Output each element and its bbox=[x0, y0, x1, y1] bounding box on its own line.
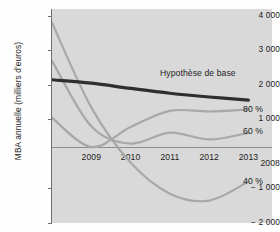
x-tick-label: 2009 bbox=[77, 152, 105, 162]
y-tick-mark bbox=[48, 119, 52, 120]
y-tick-label: 3 000 bbox=[236, 45, 280, 54]
y-tick-mark bbox=[48, 188, 52, 189]
x-tick-label: 2012 bbox=[195, 152, 223, 162]
x-tick-label: 2010 bbox=[117, 152, 145, 162]
series-label-80: 80 % bbox=[243, 104, 263, 114]
y-tick-mark bbox=[48, 223, 52, 224]
y-tick-label: 1 000 bbox=[236, 114, 280, 123]
y-tick-label: 2 000 bbox=[236, 80, 280, 89]
y-tick-label: − 2 000 bbox=[236, 218, 280, 227]
series-label-60: 60 % bbox=[243, 126, 263, 136]
y-axis-line bbox=[51, 9, 52, 223]
y-tick-label: 4 000 bbox=[236, 11, 280, 20]
y-axis-title: MBA annuelle (milliers d'euros) bbox=[13, 21, 23, 181]
x-tick-label: 2011 bbox=[156, 152, 184, 162]
zero-line bbox=[52, 147, 272, 148]
y-tick-mark bbox=[48, 16, 52, 17]
series-label-40: 40 % bbox=[243, 176, 263, 186]
y-tick-mark bbox=[48, 85, 52, 86]
series-label-baseline: Hypothèse de base bbox=[160, 68, 236, 78]
chart-figure: 4 0003 0002 0001 000− 1 000− 2 0002008 M… bbox=[0, 0, 280, 232]
x-tick-label: 2013 bbox=[234, 152, 262, 162]
y-tick-mark bbox=[48, 50, 52, 51]
